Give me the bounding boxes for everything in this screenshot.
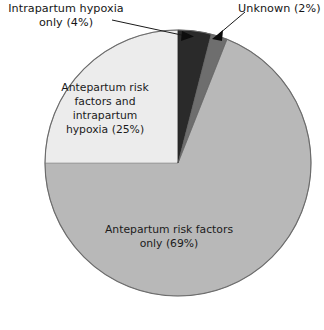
pie-chart-canvas <box>0 0 324 330</box>
leader-line-unknown <box>212 12 245 41</box>
slice-label-antepartum-risk-factors-only: Antepartum risk factors only (69%) <box>93 223 245 251</box>
slice-label-antepartum-and-intrapartum: Antepartum risk factors and intrapartum … <box>44 81 166 137</box>
slice-label-intrapartum-hypoxia-only: Intrapartum hypoxia only (4%) <box>2 2 130 29</box>
slice-label-unknown: Unknown (2%) <box>238 2 322 16</box>
pie-chart-figure: Intrapartum hypoxia only (4%) Unknown (2… <box>0 0 324 330</box>
